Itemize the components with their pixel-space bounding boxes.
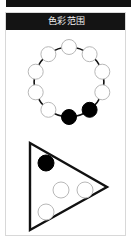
ring-node-9-empty[interactable] <box>28 64 43 79</box>
app-root: 色彩范围 <box>0 0 131 244</box>
ring-node-7-empty[interactable] <box>41 102 56 117</box>
panel-title: 色彩范围 <box>48 16 86 27</box>
triangle-node-3-empty[interactable] <box>77 182 93 198</box>
panel-titlebar[interactable]: 色彩范围 <box>6 13 126 30</box>
panel-body <box>6 30 126 236</box>
ring-node-2-empty[interactable] <box>82 47 97 62</box>
triangle-node-4-empty[interactable] <box>38 204 54 220</box>
ring-node-3-empty[interactable] <box>95 64 110 79</box>
triangle-node-1-selected[interactable] <box>38 155 54 171</box>
ring-node-8-empty[interactable] <box>28 85 43 100</box>
ring-nodes-group <box>28 40 110 125</box>
ring-node-6-selected[interactable] <box>62 110 77 125</box>
ring-node-4-empty[interactable] <box>95 85 110 100</box>
ring-node-5-selected[interactable] <box>82 102 97 117</box>
triangle-node-2-empty[interactable] <box>53 182 69 198</box>
ring-node-1-empty[interactable] <box>62 40 77 55</box>
window-chrome-strip <box>6 0 131 7</box>
ring-node-10-empty[interactable] <box>41 47 56 62</box>
diagram-canvas <box>6 30 126 236</box>
color-range-panel: 色彩范围 <box>5 12 126 236</box>
